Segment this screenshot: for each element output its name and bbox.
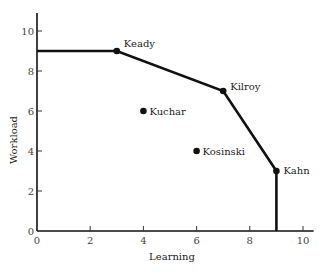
data-point-marker	[220, 88, 227, 95]
data-point-marker	[140, 108, 147, 115]
y-axis-label: Workload	[8, 115, 19, 164]
data-point-marker	[193, 148, 200, 155]
x-tick-label: 8	[247, 235, 253, 246]
data-point-label: Keady	[124, 38, 155, 49]
x-tick-label: 2	[87, 235, 93, 246]
data-point-label: Kilroy	[230, 81, 261, 92]
data-point-label: Kosinski	[203, 146, 245, 157]
data-point-label: Kahn	[283, 165, 310, 176]
y-tick-label: 10	[21, 26, 34, 37]
x-axis-label: Learning	[149, 251, 195, 262]
x-tick-label: 0	[34, 235, 40, 246]
axes: 02468100246810	[21, 13, 313, 246]
y-tick-label: 6	[28, 106, 34, 117]
y-tick-label: 0	[28, 226, 34, 237]
data-points: KeadyKilroyKucharKosinskiKahn	[114, 38, 311, 176]
scatter-chart: 02468100246810 KeadyKilroyKucharKosinski…	[0, 0, 324, 277]
data-point-marker	[273, 168, 280, 175]
data-point-label: Kuchar	[149, 106, 186, 117]
y-tick-label: 8	[28, 66, 34, 77]
frontier-polyline	[37, 51, 276, 231]
frontier-line	[37, 51, 276, 231]
x-tick-label: 10	[297, 235, 310, 246]
y-tick-label: 4	[28, 146, 34, 157]
x-tick-label: 4	[140, 235, 146, 246]
y-tick-label: 2	[28, 186, 34, 197]
x-tick-label: 6	[193, 235, 199, 246]
data-point-marker	[114, 48, 121, 55]
